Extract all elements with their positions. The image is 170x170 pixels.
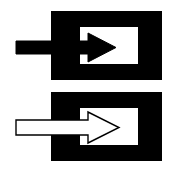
arrow-block-diagram <box>0 0 170 170</box>
diagram-canvas: Two stacked black rectangular blocks, ea… <box>0 0 170 170</box>
